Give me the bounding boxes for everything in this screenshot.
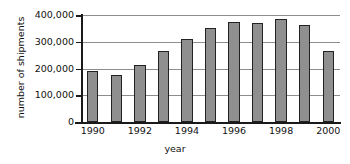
x-axis-tick-label: 1992 [120, 125, 160, 136]
y-axis-tick-label: 0 [4, 116, 74, 127]
bar [205, 28, 216, 122]
bar [228, 22, 239, 122]
y-axis-tick-label: 100,000 [4, 89, 74, 100]
x-axis-tick-label: 1996 [214, 125, 254, 136]
bar-series [81, 15, 340, 122]
y-axis-tick-label: 400,000 [4, 9, 74, 20]
bar [323, 51, 334, 122]
bar [275, 19, 286, 122]
bar [299, 25, 310, 122]
y-axis-tick-label: 200,000 [4, 63, 74, 74]
x-axis-line [75, 122, 341, 124]
y-axis-tick-label: 300,000 [4, 36, 74, 47]
x-axis-tick-label: 2000 [308, 125, 348, 136]
x-axis-title: year [0, 143, 350, 154]
bar [158, 51, 169, 122]
bar-chart: number of shipments 0100,000200,000300,0… [0, 0, 350, 164]
bar [87, 71, 98, 122]
x-axis-tick-label: 1994 [167, 125, 207, 136]
bar [111, 75, 122, 122]
bar [181, 39, 192, 122]
x-axis-tick-label: 1990 [73, 125, 113, 136]
bar [252, 23, 263, 122]
bar [134, 65, 145, 122]
x-axis-tick-label: 1998 [261, 125, 301, 136]
